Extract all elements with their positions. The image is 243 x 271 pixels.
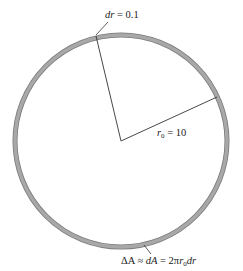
r0-value: = 10 [165, 127, 187, 138]
ring-diagram [0, 0, 243, 271]
equals-2pi: = 2π [157, 255, 179, 266]
dr-label: dr = 0.1 [105, 10, 139, 21]
dr-var-2: dr [187, 255, 196, 266]
dr-var: dr [105, 9, 114, 20]
area-leader-line [144, 245, 151, 254]
da-var: dA [146, 255, 158, 266]
area-formula-label: ΔA ≈ dA = 2πr0dr [121, 256, 196, 268]
delta-a: ΔA [121, 255, 135, 266]
dr-leader-line [96, 22, 108, 35]
dr-value: = 0.1 [114, 9, 138, 20]
radius-line-top [96, 36, 121, 141]
r0-label: r0 = 10 [157, 128, 186, 140]
approx-sign: ≈ [135, 255, 146, 266]
